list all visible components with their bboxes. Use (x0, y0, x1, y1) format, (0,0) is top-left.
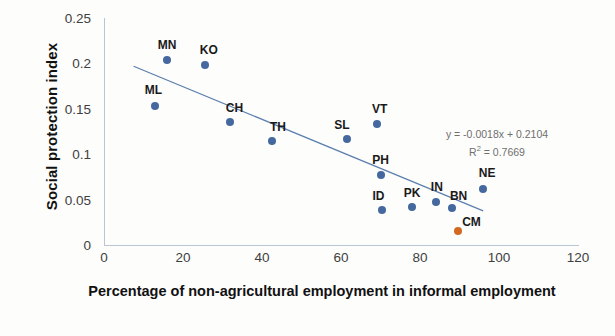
r-squared-line: R2 = 0.7669 (424, 142, 570, 159)
data-point (201, 61, 209, 69)
regression-equation-line: y = -0.0018x + 0.2104 (424, 128, 570, 142)
data-point-label: MN (158, 38, 177, 52)
data-point-label: VT (372, 102, 387, 116)
data-point-label: CH (226, 101, 243, 115)
data-point (432, 198, 440, 206)
x-tick-label: 60 (333, 250, 348, 265)
data-point-label: SL (334, 118, 349, 132)
data-point (408, 203, 416, 211)
data-point (479, 185, 487, 193)
data-point-label: ID (372, 189, 384, 203)
data-point (343, 135, 351, 143)
regression-equation-box: y = -0.0018x + 0.2104 R2 = 0.7669 (424, 128, 570, 159)
data-point-label: BN (450, 189, 467, 203)
data-point (378, 206, 386, 214)
y-tick-label: 0.2 (72, 56, 91, 71)
x-axis-line (104, 245, 579, 246)
data-point-label: TH (270, 120, 286, 134)
y-tick-label: 0 (83, 238, 91, 253)
y-tick-label: 0.1 (72, 147, 91, 162)
data-point-label: ML (145, 83, 162, 97)
data-point-label: CM (462, 215, 481, 229)
scatter-chart: Social protection index Percentage of no… (0, 0, 615, 336)
y-tick-label: 0.25 (65, 11, 91, 26)
x-tick-label: 100 (488, 250, 511, 265)
data-point-label: NE (479, 166, 496, 180)
data-point (226, 118, 234, 126)
data-point (163, 56, 171, 64)
data-point (377, 171, 385, 179)
x-tick-label: 40 (254, 250, 269, 265)
data-point (151, 102, 159, 110)
data-point-label: IN (431, 180, 443, 194)
data-point (448, 204, 456, 212)
data-point-label: KO (200, 43, 218, 57)
data-point (373, 120, 381, 128)
x-tick-label: 20 (175, 250, 190, 265)
x-tick-label: 0 (100, 250, 108, 265)
y-tick-label: 0.15 (65, 101, 91, 116)
y-axis-ticks: 00.050.10.150.20.25 (0, 0, 100, 336)
x-tick-label: 80 (412, 250, 427, 265)
x-axis-title: Percentage of non-agricultural employmen… (72, 282, 572, 301)
data-point-label: PH (372, 153, 389, 167)
x-tick-label: 120 (567, 250, 590, 265)
data-point (268, 137, 276, 145)
y-tick-label: 0.05 (65, 192, 91, 207)
data-point (454, 227, 462, 235)
data-point-label: PK (404, 186, 421, 200)
